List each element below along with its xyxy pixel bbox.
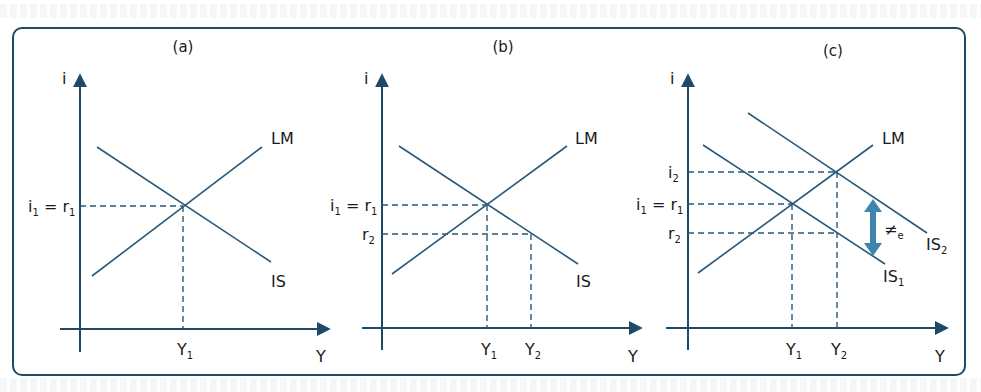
tick-y1: Y1 xyxy=(176,340,193,361)
tick-i1-r1: i1 = r1 xyxy=(28,197,75,218)
x-axis-label: Y xyxy=(934,347,945,366)
lm-label: LM xyxy=(575,129,598,148)
lm-label: LM xyxy=(271,129,294,148)
lm-label: LM xyxy=(882,129,905,148)
is-label: IS xyxy=(576,272,591,291)
double-arrow-icon xyxy=(864,199,882,256)
panel-c-title: (c) xyxy=(823,42,843,60)
not-equal-e-label: ≠e xyxy=(884,220,904,241)
lm-curve xyxy=(698,145,873,273)
x-axis-label: Y xyxy=(315,347,326,366)
y-axis-label: i xyxy=(62,69,66,88)
panel-b-title: (b) xyxy=(492,38,513,56)
panel-b: (b) i Y LM IS i1 = r1 r2 Y1 Y2 xyxy=(330,38,640,366)
tick-y1: Y1 xyxy=(480,340,497,361)
y-axis-label: i xyxy=(670,69,674,88)
tick-y1: Y1 xyxy=(785,340,802,361)
is-curve xyxy=(97,147,271,262)
panel-a-title: (a) xyxy=(173,38,194,56)
is-label: IS xyxy=(271,272,286,291)
tick-i1-r1: i1 = r1 xyxy=(330,196,377,217)
tick-y2: Y2 xyxy=(830,340,847,361)
lm-curve xyxy=(392,146,567,274)
x-axis-label: Y xyxy=(627,347,638,366)
tick-i2: i2 xyxy=(668,163,679,184)
tick-i1-r1: i1 = r1 xyxy=(636,195,683,216)
tick-r2: r2 xyxy=(668,224,681,245)
is1-label: IS1 xyxy=(883,267,904,288)
tick-r2: r2 xyxy=(362,225,375,246)
y-axis-label: i xyxy=(364,69,368,88)
panel-a: (a) i Y LM IS i1 = r1 Y1 xyxy=(28,38,328,366)
tick-y2: Y2 xyxy=(524,340,541,361)
panel-c: (c) i Y LM IS1 IS2 i2 i1 = r1 r2 Y1 Y2 ≠… xyxy=(636,42,947,366)
is2-label: IS2 xyxy=(926,235,947,256)
lm-curve xyxy=(92,147,262,276)
